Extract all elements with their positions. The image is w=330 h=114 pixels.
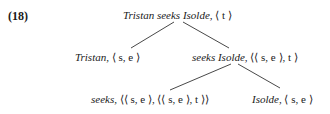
node-right: seeks Isolde, ⟨⟨ s, e ⟩, t ⟩ [192,51,298,64]
node-right-right-expr: Isolde, [252,93,282,105]
node-right-right: Isolde, ⟨ s, e ⟩ [252,93,313,106]
node-left-expr: Tristan, [75,51,109,63]
node-right-right-type: ⟨ s, e ⟩ [284,93,312,105]
node-right-expr: seeks Isolde, [192,51,248,63]
node-right-left-type: ⟨⟨ s, e ⟩, ⟨⟨ s, e ⟩, t ⟩⟩ [120,93,209,105]
node-root: Tristan seeks Isolde, ⟨ t ⟩ [123,9,232,22]
node-right-type: ⟨⟨ s, e ⟩, t ⟩ [250,51,297,63]
branch-vp-right [238,64,280,88]
node-right-left-expr: seeks, [91,93,117,105]
node-left: Tristan, ⟨ s, e ⟩ [75,51,140,64]
branch-vp-left [170,64,231,90]
branch-root-right [183,22,229,48]
branch-root-left [131,22,174,48]
node-root-expr: Tristan seeks Isolde, [123,9,213,21]
node-right-left: seeks, ⟨⟨ s, e ⟩, ⟨⟨ s, e ⟩, t ⟩⟩ [91,93,209,106]
node-root-type: ⟨ t ⟩ [215,9,232,21]
node-left-type: ⟨ s, e ⟩ [112,51,140,63]
